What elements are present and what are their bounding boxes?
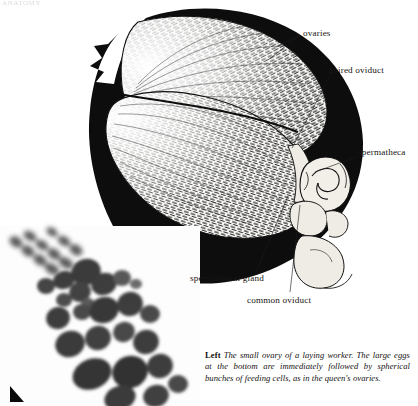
page-header-remnant: ANATOMY bbox=[2, 0, 41, 7]
figure-page: ANATOMY bbox=[0, 0, 418, 406]
ovariole-micrograph bbox=[0, 226, 200, 406]
common-oviduct-shape bbox=[294, 236, 352, 289]
caption-text: The small ovary of a laying worker. The … bbox=[205, 350, 410, 383]
figure-caption: LeftThe small ovary of a laying worker. … bbox=[205, 350, 410, 384]
label-spermathecal-gland: spermathecal gland bbox=[190, 273, 264, 283]
label-paired-oviduct: paired oviduct bbox=[329, 65, 384, 75]
label-spermatheca: spermatheca bbox=[358, 147, 406, 157]
caption-lead: Left bbox=[205, 350, 221, 360]
label-ovaries: ovaries bbox=[303, 28, 331, 38]
reproductive-organ-complex bbox=[288, 144, 352, 288]
label-common-oviduct: common oviduct bbox=[247, 295, 311, 305]
